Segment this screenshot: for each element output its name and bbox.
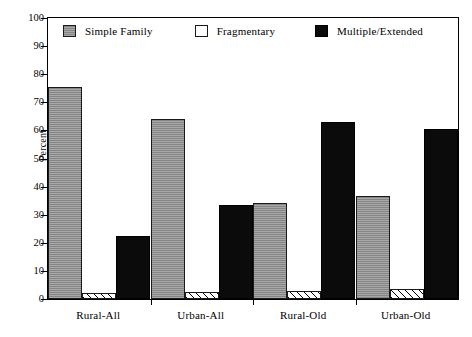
legend-label-simple-family: Simple Family	[85, 25, 153, 37]
x-axis-category-label: Urban-All	[177, 309, 224, 321]
bar	[116, 236, 150, 299]
bar	[82, 293, 116, 299]
x-axis-category-label: Rural-All	[76, 309, 120, 321]
legend-label-multiple-extended: Multiple/Extended	[337, 25, 423, 37]
y-axis-tick-label: 90	[34, 41, 45, 52]
bar	[321, 122, 355, 299]
plot-area: 0102030405060708090100	[47, 17, 459, 300]
bar	[424, 129, 458, 299]
y-axis-tick-label: 40	[34, 181, 45, 192]
bar	[287, 291, 321, 299]
y-axis-tick-label: 80	[34, 69, 45, 80]
bar	[48, 87, 82, 299]
legend-swatch-simple-family-icon	[63, 25, 76, 37]
bar	[185, 292, 219, 299]
x-axis-tick-mark	[253, 299, 254, 305]
legend-label-fragmentary: Fragmentary	[217, 25, 275, 37]
y-axis-tick-label: 100	[28, 13, 44, 24]
bar	[151, 119, 185, 299]
legend-swatch-multiple-extended-icon	[315, 25, 328, 37]
legend-swatch-fragmentary-icon	[195, 25, 208, 37]
x-axis-tick-mark	[356, 299, 357, 305]
y-axis-tick-label: 20	[34, 238, 45, 249]
y-axis-tick-label: 70	[34, 97, 45, 108]
y-axis-tick-label: 50	[34, 153, 45, 164]
y-axis-tick-label: 10	[34, 266, 45, 277]
x-axis-category-label: Urban-Old	[381, 309, 430, 321]
y-axis-tick-label: 60	[34, 125, 45, 136]
bar	[390, 289, 424, 299]
legend-item-simple-family: Simple Family	[63, 25, 153, 37]
x-axis-category-label: Rural-Old	[280, 309, 326, 321]
chart-legend: Simple Family Fragmentary Multiple/Exten…	[63, 25, 423, 37]
y-axis-title: Percent	[37, 106, 48, 186]
bar	[253, 203, 287, 299]
x-axis-tick-mark	[151, 299, 152, 305]
bar	[356, 196, 390, 299]
legend-item-fragmentary: Fragmentary	[195, 25, 275, 37]
y-axis-tick-label: 0	[39, 294, 44, 305]
y-axis-tick-label: 30	[34, 209, 45, 220]
bar-chart: Percent 0102030405060708090100 Simple Fa…	[0, 0, 472, 337]
legend-item-multiple-extended: Multiple/Extended	[315, 25, 423, 37]
bar	[219, 205, 253, 299]
